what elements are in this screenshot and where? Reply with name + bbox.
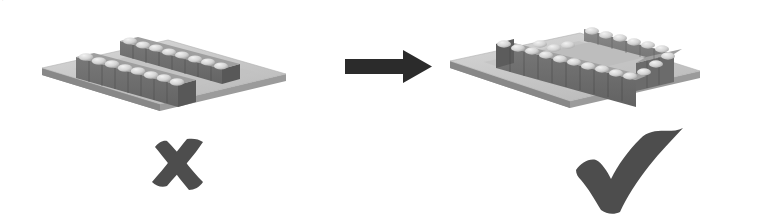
correct-layout-panel: Correct arrangement [432, 0, 768, 218]
arrow-illustration: leads to [336, 0, 440, 218]
comparison-figure: Incorrect arrangement [0, 0, 768, 218]
incorrect-layout-panel: Incorrect arrangement [0, 0, 340, 218]
check-icon [576, 128, 683, 214]
correct-verdict-text: ✓ [432, 0, 445, 3]
arrow-right-icon [345, 50, 432, 83]
transform-arrow-panel: leads to [336, 0, 440, 218]
incorrect-verdict-mark: ✗ [0, 0, 340, 218]
correct-verdict-mark: ✓ [432, 0, 768, 218]
cross-icon [152, 139, 203, 190]
incorrect-verdict-text: ✗ [0, 0, 13, 3]
arrow-label: leads to [336, 0, 392, 3]
